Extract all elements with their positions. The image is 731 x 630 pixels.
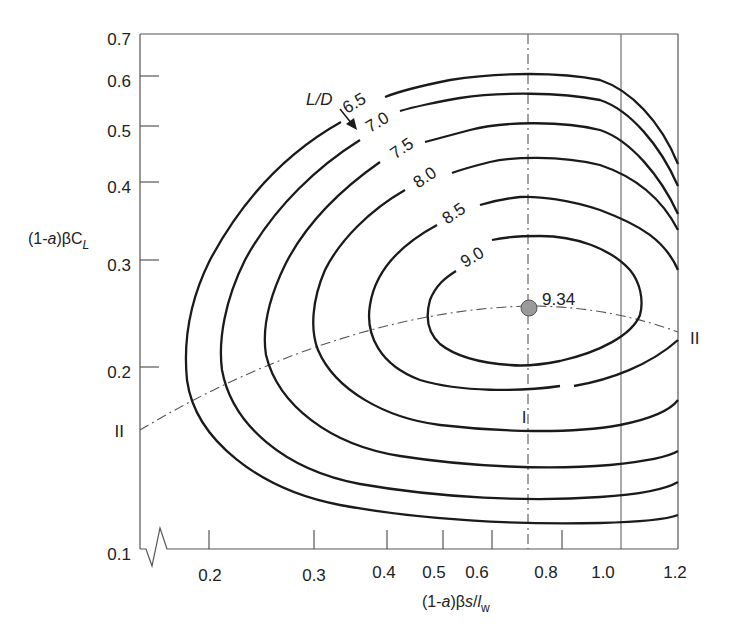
ld-pointer-label: L/D — [306, 90, 332, 109]
y-axis-labels: 0.7 0.6 0.5 0.4 0.3 0.2 0.1 — [107, 30, 131, 564]
contour-labels: 6.5 7.0 7.5 8.0 8.5 9.0 — [339, 89, 487, 271]
x-tick-label: 0.3 — [302, 566, 326, 585]
line-I-label: I — [522, 408, 527, 427]
y-tick-label: 0.6 — [107, 72, 131, 91]
contour-chart: 0.7 0.6 0.5 0.4 0.3 0.2 0.1 0.2 0.3 0.4 … — [0, 0, 731, 630]
contour-label-8.0: 8.0 — [410, 163, 440, 192]
x-axis-labels: 0.2 0.3 0.4 0.5 0.6 0.8 1.0 1.2 — [198, 563, 687, 585]
x-tick-label: 0.2 — [198, 566, 222, 585]
y-tick-label: 0.5 — [107, 122, 131, 141]
plot-frame — [140, 34, 678, 566]
y-axis-title: (1-a)βCL — [28, 230, 89, 252]
y-tick-label: 0.1 — [107, 545, 131, 564]
x-axis-ticks — [209, 530, 562, 549]
line-II-left-label: II — [115, 422, 124, 441]
contour-8.5 — [369, 197, 678, 390]
y-axis-ticks — [140, 76, 159, 367]
x-tick-label: 0.6 — [465, 563, 489, 582]
contour-lines — [186, 74, 678, 523]
contour-label-8.5: 8.5 — [439, 199, 469, 228]
x-tick-label: 0.5 — [422, 563, 446, 582]
x-tick-label: 0.8 — [534, 563, 558, 582]
y-tick-label: 0.7 — [107, 30, 131, 49]
x-axis-title: (1-a)βs/lw — [422, 593, 490, 615]
x-tick-label: 0.4 — [372, 563, 396, 582]
contour-label-7.0: 7.0 — [362, 108, 392, 136]
contour-7.5 — [265, 123, 678, 467]
optimum-marker — [521, 300, 537, 316]
y-tick-label: 0.4 — [107, 178, 131, 197]
contour-label-9.0: 9.0 — [457, 243, 487, 271]
optimum-value-label: 9.34 — [542, 290, 575, 309]
y-tick-label: 0.2 — [107, 363, 131, 382]
line-II-right-label: II — [690, 329, 699, 348]
x-tick-label: 1.0 — [591, 563, 615, 582]
y-tick-label: 0.3 — [107, 256, 131, 275]
x-tick-label: 1.2 — [663, 563, 687, 582]
contour-label-7.5: 7.5 — [387, 134, 417, 163]
contour-7.0 — [221, 94, 678, 499]
contour-6.5 — [186, 74, 678, 523]
